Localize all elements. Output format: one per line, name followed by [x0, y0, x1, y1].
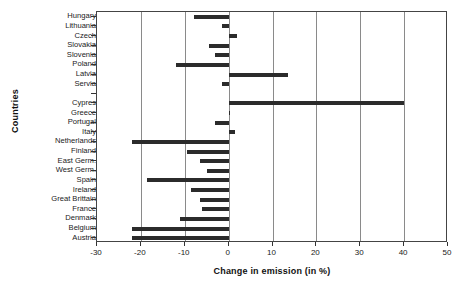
- y-tick-label-slovenia: Slovenia: [10, 50, 96, 59]
- bar-belgium: [132, 227, 229, 231]
- bar-cypres: [229, 101, 405, 105]
- y-tick-label-greece: Greece: [10, 108, 96, 117]
- bar-latvia: [229, 73, 289, 77]
- x-tick-label-10: 10: [252, 248, 292, 257]
- x-tick-mark-30: [359, 242, 360, 246]
- x-tick-label--10: -10: [164, 248, 204, 257]
- x-tick-mark-20: [315, 242, 316, 246]
- y-tick-label-lithuania: Lithuania: [10, 21, 96, 30]
- gridline-20: [316, 12, 317, 241]
- gridline-0: [229, 12, 230, 241]
- x-tick-mark--10: [184, 242, 185, 246]
- x-tick-label-30: 30: [339, 248, 379, 257]
- gridline-40: [404, 12, 405, 241]
- bar-portugal: [215, 121, 228, 125]
- y-tick-label-west-germ: West Germ.: [10, 165, 96, 174]
- y-tick-label-finland: Finland: [10, 146, 96, 155]
- gridline--10: [185, 12, 186, 241]
- x-tick-mark--30: [96, 242, 97, 246]
- bar-slovenia: [215, 53, 228, 57]
- x-tick-label-0: 0: [208, 248, 248, 257]
- bar-servia: [222, 82, 229, 86]
- bar-lithuania: [222, 24, 229, 28]
- y-tick-label-latvia: Latvia: [10, 69, 96, 78]
- bar-france: [202, 207, 228, 211]
- x-tick-mark-0: [228, 242, 229, 246]
- bar-netherlands: [132, 140, 229, 144]
- bar-ireland: [191, 188, 228, 192]
- bar-west-germ: [207, 169, 229, 173]
- x-tick-mark--20: [140, 242, 141, 246]
- x-axis-title: Change in emission (in %): [96, 266, 448, 276]
- bar-austria: [132, 236, 229, 240]
- y-tick-label-netherlands: Netherlands: [10, 136, 96, 145]
- bar-greece: [229, 111, 230, 115]
- y-tick-label-denmark: Denmark: [10, 213, 96, 222]
- bar-finland: [187, 150, 229, 154]
- x-tick-label-20: 20: [295, 248, 335, 257]
- x-axis-tick-group: -30-20-1001020304050: [96, 242, 447, 266]
- y-axis-tick-group: HungaryLithuaniaCzechSlovakiaSloveniaPol…: [0, 11, 96, 242]
- y-tick-label-ireland: Ireland: [10, 185, 96, 194]
- gridline-30: [360, 12, 361, 241]
- y-tick-label-austria: Austria: [10, 233, 96, 242]
- x-tick-mark-40: [403, 242, 404, 246]
- y-tick-label-cypres: Cypres: [10, 98, 96, 107]
- bar-slovakia: [209, 44, 229, 48]
- y-tick-label-italy: Italy: [10, 127, 96, 136]
- y-tick-label-spain: Spain: [10, 175, 96, 184]
- y-tick-label-hungary: Hungary: [10, 11, 96, 20]
- plot-area: [96, 11, 447, 242]
- x-tick-mark-50: [447, 242, 448, 246]
- y-tick-label-poland: Poland: [10, 59, 96, 68]
- x-tick-label-40: 40: [383, 248, 423, 257]
- x-tick-label-50: 50: [427, 248, 456, 257]
- bar-spain: [147, 178, 228, 182]
- bar-italy: [229, 130, 236, 134]
- y-tick-label-great-brittain: Great Brittain: [10, 194, 96, 203]
- y-tick-label-czech: Czech: [10, 31, 96, 40]
- y-tick-label-slovakia: Slovakia: [10, 40, 96, 49]
- bar-east-germ: [200, 159, 229, 163]
- y-tick-label-servia: Servia: [10, 79, 96, 88]
- y-tick-label-belgium: Belgium: [10, 223, 96, 232]
- bar-czech: [229, 34, 238, 38]
- x-tick-mark-10: [272, 242, 273, 246]
- bar-hungary: [194, 15, 229, 19]
- x-tick-label--30: -30: [76, 248, 116, 257]
- y-tick-label-east-germ: East Germ.: [10, 156, 96, 165]
- y-tick-label-portugal: Portugal: [10, 117, 96, 126]
- bar-poland: [176, 63, 229, 67]
- gridline-10: [273, 12, 274, 241]
- bar-great-brittain: [200, 198, 229, 202]
- y-tick-label-france: France: [10, 204, 96, 213]
- gridline--20: [141, 12, 142, 241]
- bar-denmark: [180, 217, 228, 221]
- x-tick-label--20: -20: [120, 248, 160, 257]
